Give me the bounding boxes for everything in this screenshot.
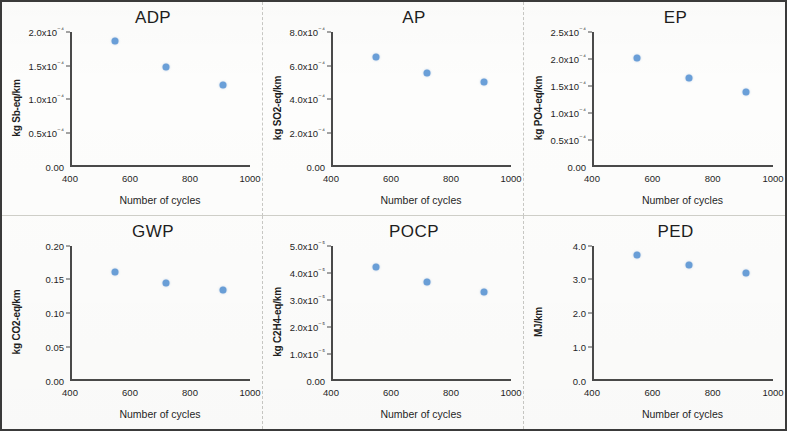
plot-area: 0.01.02.03.04.04006008001000 — [592, 246, 773, 382]
y-axis-tick-mark — [66, 65, 70, 66]
y-axis-tick-label: 0.5x10⁻⁴ — [551, 134, 592, 146]
data-point — [634, 54, 641, 61]
x-axis-tick-label: 400 — [323, 387, 339, 398]
x-axis-line — [70, 165, 250, 167]
y-axis-tick-mark — [588, 347, 592, 348]
y-axis-tick-mark — [66, 99, 70, 100]
y-axis-line — [592, 246, 594, 382]
x-axis-tick-label: 600 — [383, 387, 399, 398]
y-axis-tick-label: 4.0x10⁻⁴ — [290, 93, 331, 105]
panel-title: GWP — [2, 222, 262, 242]
y-axis-tick-mark — [327, 32, 331, 33]
y-axis-tick-label: 2.0x10⁻⁵ — [290, 321, 331, 333]
data-point — [481, 289, 488, 296]
x-axis-tick-label: 1000 — [762, 387, 783, 398]
x-axis-tick-label: 400 — [323, 173, 339, 184]
data-point — [424, 69, 431, 76]
y-axis-tick-mark — [327, 299, 331, 300]
data-point — [742, 269, 749, 276]
y-axis-tick-mark — [66, 279, 70, 280]
y-axis-line — [331, 32, 333, 167]
plot-area: 0.000.5x10⁻⁴1.0x10⁻⁴1.5x10⁻⁴2.0x10⁻⁴2.5x… — [592, 32, 773, 167]
y-axis-tick-label: 2.0x10⁻⁴ — [551, 53, 592, 65]
x-axis-tick-label: 400 — [62, 173, 78, 184]
y-axis-tick-mark — [66, 347, 70, 348]
data-point — [424, 279, 431, 286]
y-axis-tick-mark — [588, 245, 592, 246]
y-axis-label: kg C2H4-eq/km — [272, 287, 283, 357]
y-axis-tick-label: 5.0x10⁻⁵ — [290, 239, 331, 251]
data-point — [634, 251, 641, 258]
y-axis-tick-mark — [588, 112, 592, 113]
data-point — [373, 263, 380, 270]
data-point — [163, 63, 170, 70]
y-axis-tick-mark — [66, 313, 70, 314]
y-axis-tick-mark — [588, 279, 592, 280]
y-axis-tick-mark — [588, 313, 592, 314]
y-axis-tick-mark — [327, 99, 331, 100]
y-axis-tick-label: 0.00 — [568, 161, 593, 172]
plot-area: 0.002.0x10⁻⁴4.0x10⁻⁴6.0x10⁻⁴8.0x10⁻⁴4006… — [331, 32, 511, 167]
x-axis-tick-label: 800 — [182, 173, 198, 184]
x-axis-tick-label: 800 — [705, 173, 721, 184]
x-axis-tick-label: 600 — [644, 173, 660, 184]
panel-ap: AP kg SO2-eq/km 0.002.0x10⁻⁴4.0x10⁻⁴6.0x… — [263, 2, 524, 216]
x-axis-tick-label: 600 — [122, 173, 138, 184]
data-point — [742, 89, 749, 96]
panel-adp: ADP kg Sb-eq/km 0.000.5x10⁻⁴1.0x10⁻⁴1.5x… — [2, 2, 263, 216]
data-point — [685, 262, 692, 269]
y-axis-tick-mark — [66, 132, 70, 133]
y-axis-tick-mark — [588, 85, 592, 86]
x-axis-tick-label: 800 — [443, 173, 459, 184]
figure-panel-grid: ADP kg Sb-eq/km 0.000.5x10⁻⁴1.0x10⁻⁴1.5x… — [0, 0, 787, 431]
x-axis-line — [331, 379, 511, 381]
x-axis-label: Number of cycles — [592, 194, 773, 206]
y-axis-tick-label: 1.5x10⁻⁴ — [551, 80, 592, 92]
y-axis-tick-mark — [588, 139, 592, 140]
x-axis-tick-label: 400 — [584, 387, 600, 398]
x-axis-tick-label: 1000 — [762, 173, 783, 184]
y-axis-label: MJ/km — [533, 307, 544, 337]
x-axis-tick-label: 800 — [182, 387, 198, 398]
y-axis-tick-label: 1.0x10⁻⁴ — [551, 107, 592, 119]
x-axis-line — [70, 379, 250, 381]
data-point — [220, 286, 227, 293]
y-axis-label: kg PO4-eq/km — [533, 76, 544, 140]
y-axis-tick-label: 2.0x10⁻⁴ — [29, 26, 70, 38]
data-point — [112, 268, 119, 275]
y-axis-tick-label: 4.0x10⁻⁵ — [290, 267, 331, 279]
y-axis-tick-mark — [327, 65, 331, 66]
x-axis-tick-label: 600 — [644, 387, 660, 398]
y-axis-tick-label: 1.0x10⁻⁴ — [29, 93, 70, 105]
y-axis-line — [331, 246, 333, 382]
x-axis-label: Number of cycles — [70, 408, 250, 420]
y-axis-tick-label: 0.00 — [307, 376, 332, 387]
y-axis-label: kg Sb-eq/km — [11, 80, 22, 137]
x-axis-line — [592, 165, 773, 167]
data-point — [685, 74, 692, 81]
y-axis-label: kg SO2-eq/km — [272, 76, 283, 140]
data-point — [112, 37, 119, 44]
y-axis-tick-mark — [66, 245, 70, 246]
x-axis-label: Number of cycles — [592, 408, 773, 420]
panel-gwp: GWP kg CO2-eq/km 0.000.050.100.150.20400… — [2, 216, 263, 430]
data-point — [163, 279, 170, 286]
y-axis-tick-mark — [327, 245, 331, 246]
plot-area: 0.000.5x10⁻⁴1.0x10⁻⁴1.5x10⁻⁴2.0x10⁻⁴4006… — [70, 32, 250, 167]
y-axis-tick-label: 0.0 — [573, 376, 592, 387]
x-axis-tick-label: 1000 — [239, 173, 260, 184]
y-axis-tick-mark — [327, 132, 331, 133]
panel-pocp: POCP kg C2H4-eq/km 0.001.0x10⁻⁵2.0x10⁻⁵3… — [263, 216, 524, 430]
y-axis-tick-mark — [588, 32, 592, 33]
x-axis-tick-label: 1000 — [500, 387, 521, 398]
data-point — [481, 79, 488, 86]
y-axis-line — [70, 246, 72, 382]
x-axis-tick-label: 600 — [122, 387, 138, 398]
y-axis-line — [70, 32, 72, 167]
x-axis-line — [592, 379, 773, 381]
y-axis-label: kg CO2-eq/km — [11, 290, 22, 355]
x-axis-tick-label: 400 — [584, 173, 600, 184]
x-axis-tick-label: 800 — [705, 387, 721, 398]
panel-ep: EP kg PO4-eq/km 0.000.5x10⁻⁴1.0x10⁻⁴1.5x… — [524, 2, 785, 216]
y-axis-tick-label: 0.00 — [46, 376, 71, 387]
